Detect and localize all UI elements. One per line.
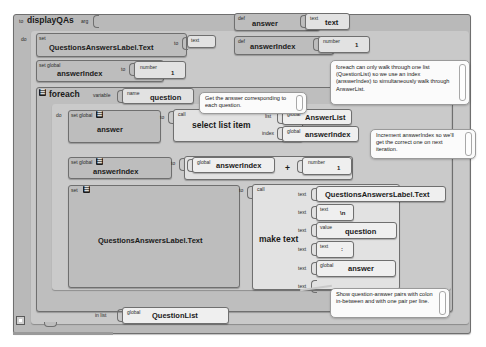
set4-to-label: to [171,160,175,166]
set5-target-label[interactable]: QuestionsAnswersLabel.Text [98,236,202,245]
make-text-value-1-kind: text [320,206,328,212]
addition-left-value[interactable]: answerIndex [216,161,261,170]
set2-value-kind-label: number [140,64,157,70]
select-list-item-index-label: index [262,130,274,136]
comment-foreach-index[interactable]: foreach can only walk through one list (… [330,60,470,105]
set3-mutator-icon[interactable]: ☰ [96,111,103,118]
set2-set-label: set global [39,62,60,68]
collapse-toggle-icon[interactable] [16,316,25,325]
set4-mutator-icon[interactable]: ☰ [96,158,103,165]
comment-increment-index[interactable]: Increment answerIndex so we'll get the c… [370,129,476,159]
comment-increment-index-scrollbar[interactable] [465,132,472,156]
make-text-socket-3-label: text [298,246,306,252]
make-text-value-3-kind: text [320,243,328,249]
foreach-name-value[interactable]: question [150,93,181,102]
comment-show-pairs-text: Show question-answer pairs with colon in… [336,291,437,305]
procedure-arg-label: arg [81,18,88,24]
make-text-value-3[interactable]: : [341,246,343,252]
comment-foreach-index-text: foreach can only walk through one list (… [336,64,457,93]
comment-show-pairs[interactable]: Show question-answer pairs with colon in… [330,288,450,318]
set2-to-label: to [121,66,125,72]
comment-get-answer-scrollbar[interactable] [296,95,303,111]
addition-left-kind: global [197,159,210,165]
def-answerindex-name[interactable]: answerIndex [250,42,295,51]
set4-set-label: set global [71,159,92,165]
global-answerindex-value[interactable]: answerIndex [305,130,350,139]
procedure-name-label[interactable]: displayQAs [27,15,74,25]
make-text-value-0[interactable]: QuestionsAnswersLabel.Text [325,190,429,199]
set2-target-label[interactable]: answerIndex [57,69,102,78]
select-list-item-name: select list item [192,120,251,130]
def-answer-value-kind: text [310,15,318,21]
foreach-name-label: name [127,90,140,96]
set3-set-label: set global [71,112,92,118]
comment-foreach-index-scrollbar[interactable] [459,64,466,101]
blocks-canvas[interactable]: to displayQAs arg do set QuestionsAnswer… [0,0,486,347]
foreach-do-label: do [56,112,62,118]
global-questionlist-kind: global [127,309,140,315]
procedure-do-label: do [21,36,27,42]
make-text-socket-0-label: text [298,191,306,197]
set1-target-label[interactable]: QuestionsAnswersLabel.Text [49,43,153,52]
make-text-value-2-kind: value [320,224,332,230]
procedure-bottom-edge [13,332,113,335]
comment-increment-index-text: Increment answerIndex so we'll get the c… [376,132,463,154]
def-answerindex-value-kind: number [323,38,340,44]
make-text-socket-1-label: text [298,209,306,215]
set4-target-label[interactable]: answerIndex [93,167,138,176]
foreach-label: foreach [49,89,80,99]
def-answer-def-label: def [238,15,245,21]
set5-to-label: to [239,187,243,193]
set3-to-label: to [160,114,164,120]
foreach-in-list-label: in list [95,312,106,318]
set3-call-label: call [178,111,186,117]
addition-right-value[interactable]: 1 [337,165,340,171]
global-answerlist-value[interactable]: AnswerList [305,113,345,122]
foreach-variable-label: variable [93,92,111,98]
def-answerindex-value[interactable]: 1 [355,42,358,48]
def-answer-name[interactable]: answer [252,19,278,28]
set5-mutator-icon[interactable]: ☰ [83,186,90,193]
procedure-bottom-notch [44,322,57,327]
procedure-to-label: to [19,18,23,24]
set1-to-label: to [174,40,178,46]
comment-get-answer[interactable]: Get the answer corresponding to each que… [199,92,307,114]
set5-set-label: set [71,187,78,193]
addition-operator-label: + [285,163,290,173]
def-answer-value[interactable]: text [325,18,338,27]
global-questionlist-value[interactable]: QuestionList [152,311,198,320]
comment-get-answer-text: Get the answer corresponding to each que… [205,95,294,109]
make-text-value-1[interactable]: \n [340,210,345,216]
make-text-value-2[interactable]: question [345,227,376,236]
make-text-socket-4-label: text [298,265,306,271]
procedure-arg-socket[interactable] [93,15,99,28]
foreach-mutator-icon[interactable]: ☰ [39,89,46,96]
make-text-value-4[interactable]: answer [348,264,374,273]
comment-show-pairs-scrollbar[interactable] [439,291,446,315]
addition-right-kind: number [308,159,325,165]
set3-target-label[interactable]: answer [97,125,123,134]
def-answerindex-def-label: def [238,38,245,44]
make-text-name: make text [259,234,298,244]
set5-call-label: call [257,186,265,192]
set1-set-label: set [39,35,46,41]
set2-value[interactable]: 1 [171,70,174,76]
make-text-socket-2-label: text [298,227,306,233]
global-answerindex-kind: global [287,128,300,134]
set1-value-kind-label: text [191,37,199,43]
make-text-value-4-kind: global [320,262,333,268]
